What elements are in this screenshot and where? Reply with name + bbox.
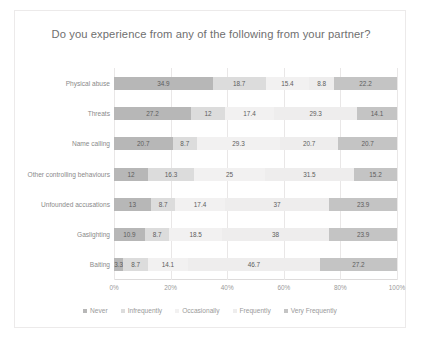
category-label: Unfounded accusations [0,201,110,208]
bar-segment: 20.7 [338,137,397,150]
x-axis-tick-label: 80% [334,284,347,291]
bar-segment: 3.3 [114,258,123,271]
category-label: Baiting [0,261,110,268]
x-axis-tick-label: 0% [109,284,118,291]
bar-row: 10.98.718.53823.9 [114,228,397,241]
bar-row: 27.21217.429.314.1 [114,107,397,120]
bar-segment: 29.3 [274,107,357,120]
x-axis-tick-label: 40% [221,284,234,291]
bar-segment: 8.7 [145,228,170,241]
bar-segment: 12 [114,168,148,181]
bar-segment: 31.5 [265,168,354,181]
legend-label: Frequently [240,307,271,314]
legend-item[interactable]: Very Frequently [284,307,337,314]
x-axis-line [114,279,397,280]
legend-swatch-icon [121,309,125,313]
bar-segment: 14.1 [148,258,188,271]
x-axis-tick-label: 100% [389,284,405,291]
chart-title: Do you experience from any of the follow… [41,27,381,42]
bar-segment: 34.9 [114,77,213,90]
bar-row: 34.918.715.48.822.2 [114,77,397,90]
bar-segment: 8.7 [173,137,198,150]
legend-label: Infrequently [128,307,162,314]
bar-segment: 8.7 [123,258,148,271]
bar-segment: 14.1 [357,107,397,120]
category-label: Threats [0,110,110,117]
legend-item[interactable]: Frequently [233,307,271,314]
bar-segment: 25 [194,168,265,181]
legend-item[interactable]: Never [83,307,108,314]
bar-segment: 12 [191,107,225,120]
legend-item[interactable]: Occasionally [175,307,219,314]
bar-segment: 8.7 [151,198,176,211]
chart-legend: NeverInfrequentlyOccasionallyFrequentlyV… [15,307,405,314]
bar-row: 20.78.729.320.720.7 [114,137,397,150]
bar-row: 1216.32531.515.2 [114,168,397,181]
bar-segment: 17.4 [225,107,274,120]
bar-segment: 37 [225,198,330,211]
bar-segment: 8.8 [309,77,334,90]
chart-frame: Do you experience from any of the follow… [14,10,406,328]
category-label: Other controlling behaviours [0,171,110,178]
category-label: Physical abuse [0,80,110,87]
bar-row: 138.717.43723.9 [114,198,397,211]
category-label: Gaslighting [0,231,110,238]
bar-segment: 15.4 [266,77,310,90]
bar-segment: 27.2 [320,258,397,271]
plot-area: 0%20%40%60%80%100%Physical abuse34.918.7… [114,68,397,280]
bar-segment: 23.9 [329,228,397,241]
bar-segment: 20.7 [114,137,173,150]
legend-swatch-icon [83,309,87,313]
x-axis-tick-label: 60% [277,284,290,291]
x-axis-tick-label: 20% [164,284,177,291]
bar-segment: 29.3 [197,137,280,150]
bar-segment: 13 [114,198,151,211]
bar-segment: 20.7 [280,137,339,150]
legend-label: Occasionally [182,307,219,314]
bar-segment: 18.7 [213,77,266,90]
bar-row: 3.38.714.146.727.2 [114,258,397,271]
legend-swatch-icon [233,309,237,313]
bar-segment: 18.5 [169,228,221,241]
bar-segment: 27.2 [114,107,191,120]
legend-swatch-icon [284,309,288,313]
bar-segment: 23.9 [329,198,397,211]
legend-label: Very Frequently [291,307,337,314]
bar-segment: 17.4 [175,198,224,211]
bar-segment: 15.2 [354,168,397,181]
bar-segment: 16.3 [148,168,194,181]
bar-segment: 22.2 [334,77,397,90]
legend-swatch-icon [175,309,179,313]
category-label: Name calling [0,140,110,147]
bar-segment: 46.7 [188,258,320,271]
legend-item[interactable]: Infrequently [121,307,162,314]
bar-segment: 10.9 [114,228,145,241]
legend-label: Never [90,307,108,314]
gridline [397,68,398,280]
bar-segment: 38 [222,228,330,241]
